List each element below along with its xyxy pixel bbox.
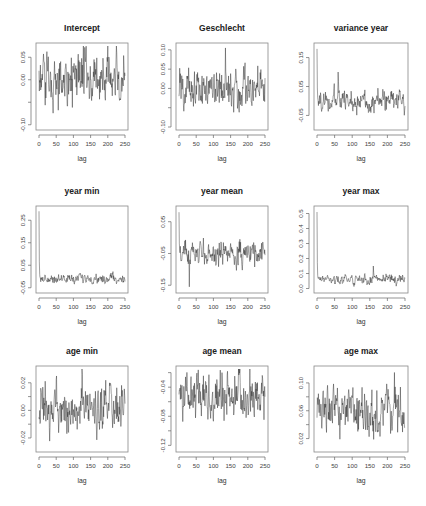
y-tick-label: 0.25 xyxy=(19,214,26,227)
x-axis-label: lag xyxy=(217,318,226,326)
y-axis: 0.00.10.20.30.40.5 xyxy=(297,209,309,293)
x-tick-label: 50 xyxy=(331,462,338,469)
acf-trace-line xyxy=(317,372,405,439)
panel-title: Geschlecht xyxy=(199,23,245,33)
x-tick-label: 50 xyxy=(331,140,338,147)
x-tick-label: 150 xyxy=(225,303,236,310)
x-tick-label: 0 xyxy=(315,140,319,147)
y-axis: -0.050.050.150.25 xyxy=(19,214,31,295)
y-tick-label: 0.02 xyxy=(19,376,26,389)
y-tick-label: 0.10 xyxy=(159,43,166,56)
y-tick-label: -0.10 xyxy=(19,117,26,132)
panel-year-max: year max050100150200250lag0.00.10.20.30.… xyxy=(297,186,411,326)
x-tick-label: 50 xyxy=(53,303,60,310)
x-tick-label: 200 xyxy=(243,140,254,147)
panel-intercept: Intercept050100150200250lag-0.100.000.05 xyxy=(19,23,131,163)
y-tick-label: -0.12 xyxy=(159,438,166,453)
acf-trace-line xyxy=(39,369,125,441)
y-tick-label: -0.05 xyxy=(159,246,166,261)
x-axis: 050100150200250 xyxy=(177,298,270,310)
y-tick-label: 0.05 xyxy=(159,215,166,228)
x-tick-label: 0 xyxy=(315,462,319,469)
x-tick-label: 150 xyxy=(225,140,236,147)
panel-age-max: age max050100150200250lag0.020.060.10 xyxy=(297,346,411,485)
y-tick-label: -0.05 xyxy=(297,108,304,123)
y-tick-label: 0.00 xyxy=(159,82,166,95)
x-tick-label: 200 xyxy=(103,303,114,310)
x-tick-label: 250 xyxy=(120,140,131,147)
x-axis-label: lag xyxy=(77,318,86,326)
acf-trace-line xyxy=(39,46,125,113)
x-tick-label: 100 xyxy=(208,140,219,147)
y-axis: -0.100.000.050.10 xyxy=(159,43,171,134)
y-tick-label: 0.1 xyxy=(297,269,304,278)
x-axis: 050100150200250 xyxy=(37,298,130,310)
x-tick-label: 100 xyxy=(208,303,219,310)
acf-plot-grid: Intercept050100150200250lag-0.100.000.05… xyxy=(0,0,426,506)
x-tick-label: 250 xyxy=(400,462,411,469)
x-tick-label: 250 xyxy=(260,462,271,469)
x-axis-label: lag xyxy=(356,477,365,485)
y-tick-label: -0.15 xyxy=(159,278,166,293)
x-tick-label: 200 xyxy=(103,140,114,147)
y-tick-label: 0.00 xyxy=(19,404,26,417)
y-tick-label: -0.10 xyxy=(159,119,166,134)
x-axis: 050100150200250 xyxy=(177,135,270,147)
acf-trace-line xyxy=(317,212,405,287)
x-tick-label: 150 xyxy=(85,462,96,469)
x-tick-label: 50 xyxy=(193,140,200,147)
panel-age-min: age min050100150200250lag-0.020.000.02 xyxy=(19,346,131,485)
x-tick-label: 200 xyxy=(243,462,254,469)
x-tick-label: 150 xyxy=(365,140,376,147)
y-axis: -0.050.050.15 xyxy=(297,51,309,122)
y-axis: -0.12-0.08-0.04 xyxy=(159,373,171,453)
y-tick-label: 0.5 xyxy=(297,209,304,218)
x-tick-label: 100 xyxy=(208,462,219,469)
y-tick-label: 0.00 xyxy=(19,73,26,86)
y-axis: 0.020.060.10 xyxy=(297,376,309,444)
y-tick-label: 0.3 xyxy=(297,239,304,248)
x-axis: 050100150200250 xyxy=(37,135,130,147)
y-tick-label: 0.05 xyxy=(19,51,26,64)
x-tick-label: 100 xyxy=(68,303,79,310)
x-tick-label: 150 xyxy=(85,140,96,147)
acf-trace-line xyxy=(179,212,265,287)
x-tick-label: 0 xyxy=(177,303,181,310)
x-tick-label: 250 xyxy=(260,303,271,310)
y-tick-label: -0.02 xyxy=(19,430,26,445)
x-axis-label: lag xyxy=(77,477,86,485)
y-tick-label: 0.06 xyxy=(297,404,304,417)
x-tick-label: 200 xyxy=(103,462,114,469)
x-tick-label: 250 xyxy=(120,303,131,310)
x-tick-label: 50 xyxy=(193,462,200,469)
y-tick-label: 0.05 xyxy=(19,259,26,272)
panel-geschlecht: Geschlecht050100150200250lag-0.100.000.0… xyxy=(159,23,271,163)
x-tick-label: 100 xyxy=(347,140,358,147)
y-tick-label: -0.05 xyxy=(19,280,26,295)
x-axis: 050100150200250 xyxy=(315,135,410,147)
y-tick-label: 0.02 xyxy=(297,432,304,445)
x-tick-label: 200 xyxy=(243,303,254,310)
y-tick-label: 0.05 xyxy=(297,80,304,93)
panel-year-min: year min050100150200250lag-0.050.050.150… xyxy=(19,186,131,326)
x-axis-label: lag xyxy=(77,155,86,163)
panel-title: year min xyxy=(65,186,100,196)
y-tick-label: 0.05 xyxy=(159,63,166,76)
y-tick-label: 0.0 xyxy=(297,284,304,293)
acf-trace-line xyxy=(179,369,265,422)
x-tick-label: 200 xyxy=(382,140,393,147)
y-tick-label: -0.08 xyxy=(159,409,166,424)
x-tick-label: 250 xyxy=(400,140,411,147)
panel-title: Intercept xyxy=(64,23,100,33)
panel-variance-year: variance year050100150200250lag-0.050.05… xyxy=(297,23,411,163)
y-tick-label: -0.04 xyxy=(159,380,166,395)
plot-frame xyxy=(314,43,408,130)
panel-title: variance year xyxy=(334,23,389,33)
x-tick-label: 150 xyxy=(225,462,236,469)
x-tick-label: 250 xyxy=(400,303,411,310)
y-axis: -0.15-0.050.05 xyxy=(159,215,171,292)
panel-age-mean: age mean050100150200250lag-0.12-0.08-0.0… xyxy=(159,346,271,485)
y-tick-label: 0.15 xyxy=(19,236,26,249)
x-tick-label: 50 xyxy=(53,140,60,147)
panel-year-mean: year mean050100150200250lag-0.15-0.050.0… xyxy=(159,186,271,326)
